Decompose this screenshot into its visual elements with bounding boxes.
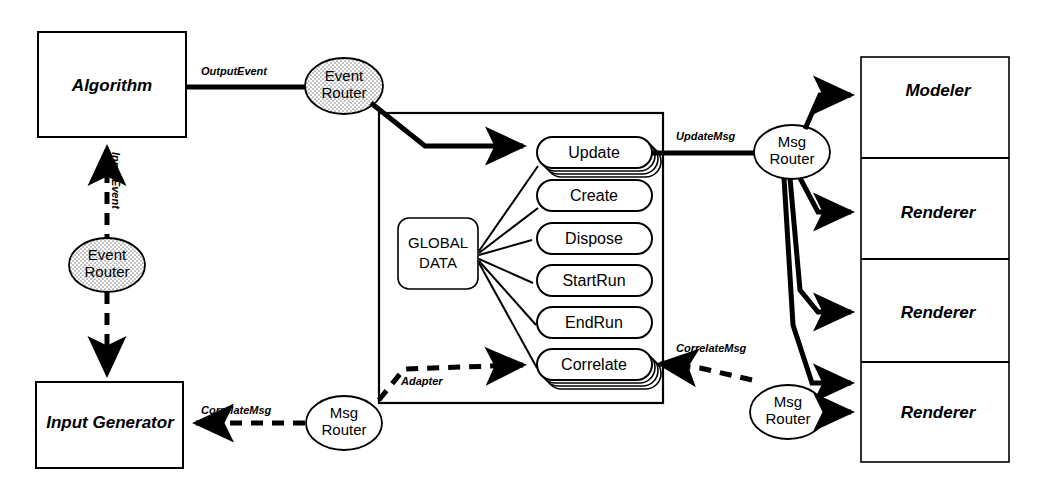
edge-msgrouter-to-renderer1 bbox=[800, 178, 851, 212]
input-generator-label: Input Generator bbox=[46, 413, 175, 432]
event-router-left[interactable]: Event Router bbox=[69, 238, 145, 292]
msg-router-right-bottom[interactable]: Msg Router bbox=[750, 385, 826, 439]
consumer-renderer-3[interactable]: Renderer bbox=[901, 403, 977, 422]
consumers-column: Modeler Renderer Renderer Renderer bbox=[861, 57, 1009, 462]
architecture-diagram: Algorithm Input Generator OutputEvent Ev… bbox=[0, 0, 1039, 496]
algorithm-label: Algorithm bbox=[71, 76, 152, 95]
operation-create[interactable]: Create bbox=[537, 180, 652, 211]
edge-update-msg: UpdateMsg bbox=[652, 130, 756, 153]
correlate-msg-right-label: CorrelateMsg bbox=[676, 342, 747, 354]
consumer-renderer-2-label: Renderer bbox=[901, 303, 977, 322]
consumer-renderer-1[interactable]: Renderer bbox=[901, 203, 977, 222]
msg-router-right-top-line2: Router bbox=[769, 150, 814, 167]
consumer-renderer-2[interactable]: Renderer bbox=[901, 303, 977, 322]
consumer-modeler-label: Modeler bbox=[905, 81, 972, 100]
operation-correlate[interactable]: Correlate bbox=[537, 349, 661, 389]
update-msg-label: UpdateMsg bbox=[676, 130, 736, 142]
msg-router-bottom-left-line1: Msg bbox=[330, 404, 358, 421]
edge-correlate-msg-left: CorrelateMsg bbox=[196, 404, 305, 423]
operation-startrun[interactable]: StartRun bbox=[537, 265, 652, 296]
operation-endrun[interactable]: EndRun bbox=[537, 307, 652, 338]
edge-correlate-msg-right: CorrelateMsg bbox=[660, 342, 752, 380]
msg-router-bottom-left-line2: Router bbox=[321, 421, 366, 438]
operation-startrun-label: StartRun bbox=[562, 272, 625, 289]
global-data-fan-lines bbox=[479, 166, 538, 368]
operation-update[interactable]: Update bbox=[537, 137, 661, 177]
edge-msgrouter-to-modeler bbox=[805, 95, 851, 129]
edge-input-event: InputEvent bbox=[107, 148, 122, 246]
msg-router-right-top[interactable]: Msg Router bbox=[754, 125, 830, 179]
correlate-msg-left-label: CorrelateMsg bbox=[201, 404, 272, 416]
event-router-left-line2: Router bbox=[84, 263, 129, 280]
edge-msgrouter-to-renderer2 bbox=[790, 178, 851, 312]
operation-create-label: Create bbox=[570, 187, 618, 204]
event-router-left-line1: Event bbox=[88, 246, 127, 263]
consumer-modeler[interactable]: Modeler bbox=[905, 81, 972, 100]
global-data-line2: DATA bbox=[419, 254, 457, 271]
global-data-node[interactable]: GLOBAL DATA bbox=[398, 218, 478, 289]
algorithm-node[interactable]: Algorithm bbox=[38, 32, 186, 137]
operation-correlate-label: Correlate bbox=[561, 356, 627, 373]
consumer-renderer-1-label: Renderer bbox=[901, 203, 977, 222]
operation-dispose[interactable]: Dispose bbox=[537, 223, 652, 254]
adapter-label: Adapter bbox=[400, 375, 443, 387]
output-event-label: OutputEvent bbox=[201, 65, 268, 77]
msg-router-right-bottom-line1: Msg bbox=[774, 393, 802, 410]
global-data-line1: GLOBAL bbox=[408, 234, 468, 251]
operation-dispose-label: Dispose bbox=[565, 230, 623, 247]
input-generator-node[interactable]: Input Generator bbox=[36, 382, 183, 468]
edge-output-event: OutputEvent bbox=[186, 65, 308, 87]
edge-adapter: Adapter bbox=[379, 365, 523, 400]
operation-endrun-label: EndRun bbox=[565, 314, 623, 331]
diagram-canvas: Algorithm Input Generator OutputEvent Ev… bbox=[0, 0, 1039, 496]
msg-router-right-bottom-line2: Router bbox=[765, 410, 810, 427]
event-router-top-line1: Event bbox=[325, 67, 364, 84]
operation-update-label: Update bbox=[568, 144, 620, 161]
msg-router-right-top-line1: Msg bbox=[778, 133, 806, 150]
event-router-top-line2: Router bbox=[321, 84, 366, 101]
edge-event-router-to-update bbox=[371, 103, 523, 146]
consumer-renderer-3-label: Renderer bbox=[901, 403, 977, 422]
msg-router-bottom-left[interactable]: Msg Router bbox=[306, 396, 382, 450]
input-event-label: InputEvent bbox=[110, 152, 122, 210]
